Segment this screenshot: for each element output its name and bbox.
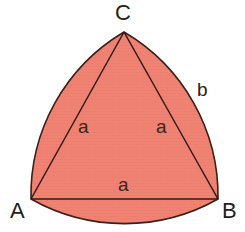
reuleaux-triangle-figure: A B C a a a b (0, 0, 245, 232)
vertex-label-c: C (115, 2, 131, 24)
vertex-label-a: A (10, 200, 25, 222)
side-label-ac: a (78, 117, 89, 136)
reuleaux-triangle-drawing (0, 0, 245, 232)
vertex-label-b: B (222, 200, 237, 222)
arc-label-b: b (197, 80, 208, 99)
side-label-bc: a (156, 117, 167, 136)
side-label-ab: a (118, 175, 129, 194)
